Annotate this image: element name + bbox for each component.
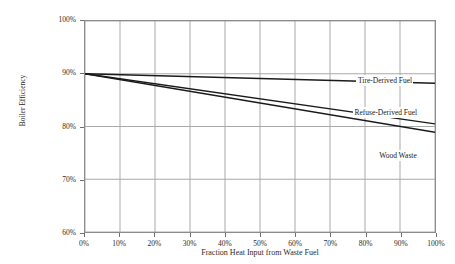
y-tick-label: 100% — [40, 15, 76, 24]
x-tick-mark — [295, 233, 296, 237]
y-tick-mark — [80, 233, 84, 234]
x-tick-mark — [154, 233, 155, 237]
y-tick-label: 90% — [40, 68, 76, 77]
x-tick-label: 20% — [134, 239, 174, 248]
x-tick-mark — [330, 233, 331, 237]
x-tick-label: 70% — [310, 239, 350, 248]
x-tick-label: 10% — [99, 239, 139, 248]
x-tick-label: 60% — [275, 239, 315, 248]
x-tick-label: 100% — [416, 239, 455, 248]
y-tick-label: 70% — [40, 175, 76, 184]
x-tick-label: 90% — [381, 239, 421, 248]
x-tick-mark — [190, 233, 191, 237]
x-tick-label: 0% — [64, 239, 104, 248]
series-lines — [85, 21, 435, 232]
x-axis-title: Fraction Heat Input from Waste Fuel — [84, 248, 436, 258]
x-tick-label: 80% — [346, 239, 386, 248]
x-tick-label: 30% — [170, 239, 210, 248]
plot-area: Tire-Derived Fuel Refuse-Derived Fuel Wo… — [84, 20, 436, 233]
x-tick-mark — [260, 233, 261, 237]
x-tick-label: 40% — [205, 239, 245, 248]
line-chart: Tire-Derived Fuel Refuse-Derived Fuel Wo… — [0, 0, 455, 264]
series-label-tire-derived-fuel: Tire-Derived Fuel — [356, 75, 413, 86]
x-tick-label: 50% — [240, 239, 280, 248]
series-label-refuse-derived-fuel: Refuse-Derived Fuel — [353, 107, 419, 118]
x-tick-mark — [366, 233, 367, 237]
y-tick-label: 80% — [40, 122, 76, 131]
x-tick-mark — [436, 233, 437, 237]
series-label-wood-waste: Wood Waste — [377, 150, 418, 161]
y-axis-title: Boiler Efficiency — [18, 56, 27, 146]
y-tick-label: 60% — [40, 228, 76, 237]
x-tick-mark — [84, 233, 85, 237]
x-tick-mark — [401, 233, 402, 237]
x-tick-mark — [119, 233, 120, 237]
x-tick-mark — [225, 233, 226, 237]
